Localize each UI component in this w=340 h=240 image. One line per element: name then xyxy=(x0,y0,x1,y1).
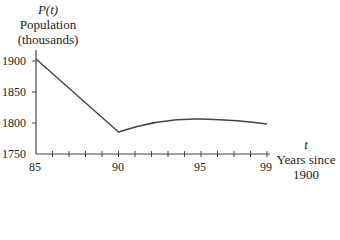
x-tick-90: 90 xyxy=(112,160,124,175)
x-tick-95: 95 xyxy=(194,160,206,175)
y-tick-1850: 1850 xyxy=(2,85,26,100)
x-axis-label-line1: Years since xyxy=(272,152,340,167)
x-axis-label-line2: 1900 xyxy=(272,167,340,182)
population-curve xyxy=(36,59,267,132)
y-tick-1900: 1900 xyxy=(2,54,26,69)
x-axis-var: t xyxy=(272,137,340,152)
y-tick-1800: 1800 xyxy=(2,116,26,131)
y-tick-1750: 1750 xyxy=(2,147,26,162)
x-tick-99: 99 xyxy=(260,160,272,175)
x-tick-85: 85 xyxy=(29,160,41,175)
x-axis-label: t Years since 1900 xyxy=(272,137,340,182)
